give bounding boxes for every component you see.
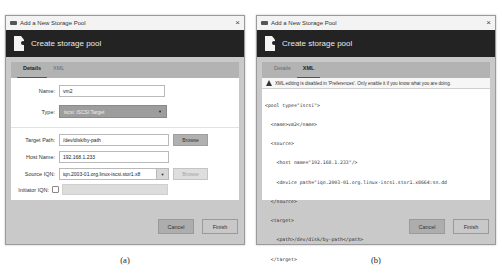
chevron-down-icon: ▼: [158, 109, 162, 114]
source-iqn-input[interactable]: iqn.2003-01.org.linux-iscsi.stor1.x8: [59, 168, 156, 180]
dialog-heading: Create storage pool: [282, 39, 352, 48]
cancel-button[interactable]: Cancel: [409, 219, 445, 234]
tab-bar: Details XML: [11, 62, 239, 78]
figure-caption-b: (b): [256, 255, 496, 265]
xml-line: <device path="iqn.2003-01.org.linux-iscs…: [265, 180, 487, 186]
dialog-footer: Cancel Finish: [257, 207, 495, 244]
initiator-iqn-checkbox[interactable]: [52, 186, 59, 193]
finish-button[interactable]: Finish: [202, 219, 238, 234]
window-titlebar: Add a New Storage Pool ×: [6, 16, 244, 30]
storage-page-icon: [14, 36, 24, 51]
initiator-iqn-input[interactable]: [62, 184, 168, 195]
form-separator: [11, 127, 239, 128]
target-path-browse-button[interactable]: Browse: [173, 134, 208, 146]
app-icon: [10, 21, 17, 25]
source-iqn-combo[interactable]: iqn.2003-01.org.linux-iscsi.stor1.x8 ▼: [59, 168, 169, 180]
dialog-header: Create storage pool: [257, 30, 495, 57]
type-select-value: iscsi: iSCSI Target: [64, 109, 104, 115]
finish-button[interactable]: Finish: [453, 219, 489, 234]
tab-details[interactable]: Details: [17, 62, 47, 78]
source-iqn-label: Source IQN:: [11, 171, 55, 177]
tab-bar: Details XML: [262, 62, 490, 78]
xml-line: <pool type="iscsi">: [265, 103, 487, 109]
window-title: Add a New Storage Pool: [20, 20, 235, 26]
storage-page-icon: [265, 36, 275, 51]
target-path-label: Target Path:: [11, 137, 55, 143]
warning-icon: [266, 80, 272, 86]
warning-text: XML editing is disabled in 'Preferences'…: [275, 81, 451, 86]
cancel-button[interactable]: Cancel: [158, 219, 194, 234]
app-icon: [261, 21, 268, 25]
host-name-label: Host Name:: [11, 154, 55, 160]
tab-xml[interactable]: XML: [47, 62, 70, 78]
initiator-iqn-label: Initiator IQN:: [11, 187, 49, 193]
window-titlebar: Add a New Storage Pool ×: [257, 16, 495, 30]
xml-line: <host name="192.168.1.233"/>: [265, 160, 487, 166]
chevron-down-icon[interactable]: ▼: [156, 168, 169, 180]
close-icon[interactable]: ×: [486, 19, 491, 27]
xml-editor-panel: XML editing is disabled in 'Preferences'…: [262, 78, 490, 200]
details-form: Name: vm2 Type: iscsi: iSCSI Target ▼ Ta…: [11, 78, 239, 200]
type-select[interactable]: iscsi: iSCSI Target ▼: [59, 105, 167, 118]
source-iqn-browse-button[interactable]: Browse: [173, 168, 208, 180]
xml-warning-banner: XML editing is disabled in 'Preferences'…: [262, 78, 490, 89]
xml-line: <name>vm2</name>: [265, 122, 487, 128]
host-name-input[interactable]: 192.168.1.233: [59, 151, 169, 163]
storage-pool-dialog-xml: Add a New Storage Pool × Create storage …: [256, 15, 496, 245]
target-path-input[interactable]: /dev/disk/by-path: [59, 134, 169, 146]
dialog-header: Create storage pool: [6, 30, 244, 57]
name-input[interactable]: vm2: [59, 85, 165, 97]
window-title: Add a New Storage Pool: [271, 20, 486, 26]
dialog-footer: Cancel Finish: [6, 207, 244, 244]
xml-line: <source>: [265, 141, 487, 147]
tab-details[interactable]: Details: [268, 62, 297, 78]
storage-pool-dialog-details: Add a New Storage Pool × Create storage …: [5, 15, 245, 245]
close-icon[interactable]: ×: [235, 19, 240, 27]
figure-caption-a: (a): [5, 255, 245, 265]
xml-editor[interactable]: <pool type="iscsi"> <name>vm2</name> <so…: [265, 90, 487, 276]
xml-line: </source>: [265, 199, 487, 205]
tab-xml[interactable]: XML: [297, 62, 321, 78]
type-label: Type:: [11, 109, 55, 115]
dialog-heading: Create storage pool: [31, 39, 101, 48]
name-label: Name:: [11, 88, 55, 94]
